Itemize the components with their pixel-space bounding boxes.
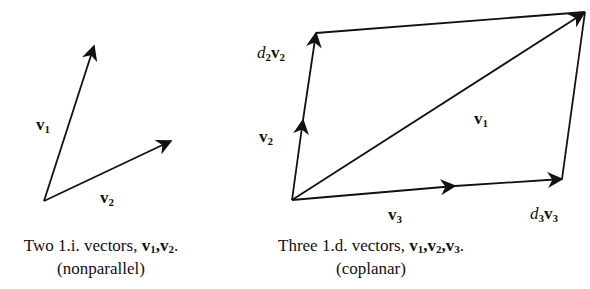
label-v3: v3 xyxy=(388,206,402,225)
left-figure xyxy=(44,46,171,201)
caption-left-line2: (nonparallel) xyxy=(10,259,192,279)
vector-d3v3 xyxy=(455,179,562,186)
label-d3v3: d3v3 xyxy=(530,205,558,224)
caption-right-line1: Three 1.d. vectors, v1,v2,v3. xyxy=(255,236,487,259)
vector-v2 xyxy=(292,120,303,200)
right-figure xyxy=(292,12,585,200)
label-v1-right: v1 xyxy=(474,110,488,129)
vector-v1-diagonal xyxy=(292,13,584,200)
vector-v3 xyxy=(292,186,455,200)
caption-left: Two 1.i. vectors, v1,v2. (nonparallel) xyxy=(10,236,192,279)
caption-left-line1: Two 1.i. vectors, v1,v2. xyxy=(10,236,192,259)
caption-right-line2: (coplanar) xyxy=(255,259,487,279)
label-v2-left: v2 xyxy=(100,189,114,208)
label-v2-right: v2 xyxy=(259,128,273,147)
edge-top xyxy=(316,12,585,33)
vector-d2v2 xyxy=(303,33,316,120)
label-v1-left: v1 xyxy=(36,116,50,135)
caption-right: Three 1.d. vectors, v1,v2,v3. (coplanar) xyxy=(255,236,487,279)
label-d2v2: d2v2 xyxy=(257,44,285,63)
edge-right xyxy=(562,12,585,179)
vector-v1-arrow xyxy=(44,46,94,201)
